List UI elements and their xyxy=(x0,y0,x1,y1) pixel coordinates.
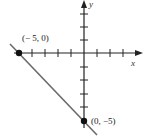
y-axis-label: y xyxy=(88,0,93,9)
point-b-marker xyxy=(81,118,87,124)
point-b-label: (0, −5) xyxy=(91,116,116,126)
point-a-marker xyxy=(16,50,22,56)
y-axis-arrow-icon xyxy=(81,0,87,8)
x-axis-label: x xyxy=(130,58,135,68)
point-a-label: (− 5, 0) xyxy=(22,33,49,43)
coordinate-graph: (− 5, 0) (0, −5) x y xyxy=(0,0,145,137)
x-axis-arrow-icon xyxy=(135,50,143,56)
